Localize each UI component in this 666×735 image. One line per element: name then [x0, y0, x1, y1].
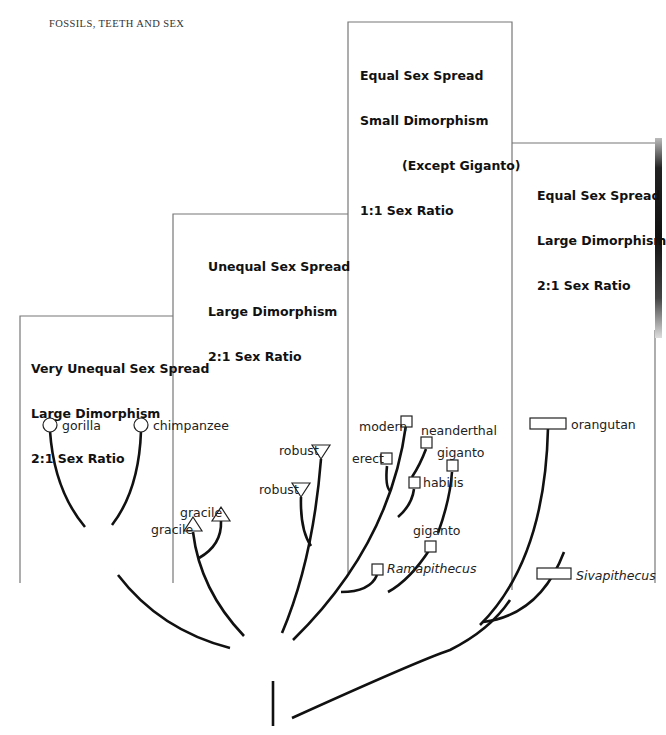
branch-gracile-stem: [193, 532, 244, 636]
label-ramapithecus: Ramapithecus: [387, 562, 476, 576]
box-3-line-2: Small Dimorphism: [360, 113, 521, 128]
box-1-title: Very Unequal Sex Spread Large Dimorphism…: [31, 331, 209, 481]
branch-sivapithecus: [483, 552, 564, 622]
box-3-line-1: Equal Sex Spread: [360, 68, 521, 83]
branch-erect: [386, 466, 390, 491]
label-robust-1: robust: [279, 444, 319, 458]
marker-orangutan-rect: [530, 418, 566, 429]
box-1-line-3: 2:1 Sex Ratio: [31, 451, 209, 466]
label-orangutan: orangutan: [571, 418, 636, 432]
box-4-line-3: 2:1 Sex Ratio: [537, 278, 666, 293]
label-habilis: habilis: [423, 476, 463, 490]
box-4-line-2: Large Dimorphism: [537, 233, 666, 248]
box-2-line-3: 2:1 Sex Ratio: [208, 349, 350, 364]
label-robust-2: robust: [259, 483, 299, 497]
box-3-title: Equal Sex Spread Small Dimorphism (Excep…: [360, 38, 521, 233]
label-neanderthal: neanderthal: [421, 424, 497, 438]
box-2-line-2: Large Dimorphism: [208, 304, 350, 319]
label-gracile-1: gracile: [151, 523, 193, 537]
label-modern: modern: [359, 420, 407, 434]
branch-left-lower: [118, 575, 230, 648]
marker-giganto-2-square: [425, 541, 436, 552]
branch-gracile-2: [199, 521, 221, 558]
box-2-title: Unequal Sex Spread Large Dimorphism 2:1 …: [208, 229, 350, 379]
label-erect: erect: [352, 452, 384, 466]
box-3-line-3: (Except Giganto): [360, 158, 521, 173]
label-gorilla: gorilla: [62, 419, 101, 433]
branch-neanderthal: [412, 449, 426, 477]
marker-giganto-1-square: [447, 460, 458, 471]
box-1-line-1: Very Unequal Sex Spread: [31, 361, 209, 376]
marker-habilis-square: [409, 477, 420, 488]
branch-main-right: [292, 600, 510, 718]
marker-neanderthal-square: [421, 437, 432, 448]
branch-habilis: [398, 489, 414, 517]
label-giganto-1: giganto: [437, 446, 484, 460]
box-2-line-1: Unequal Sex Spread: [208, 259, 350, 274]
box-4-title: Equal Sex Spread Large Dimorphism 2:1 Se…: [537, 158, 666, 308]
marker-sivapithecus-rect: [537, 568, 571, 579]
label-giganto-2: giganto: [413, 524, 460, 538]
label-chimpanzee: chimpanzee: [153, 419, 229, 433]
marker-ramapithecus-square: [372, 564, 383, 575]
box-3-line-4: 1:1 Sex Ratio: [360, 203, 521, 218]
box-4-line-1: Equal Sex Spread: [537, 188, 666, 203]
label-gracile-2: gracile: [180, 506, 222, 520]
label-sivapithecus: Sivapithecus: [576, 569, 656, 583]
